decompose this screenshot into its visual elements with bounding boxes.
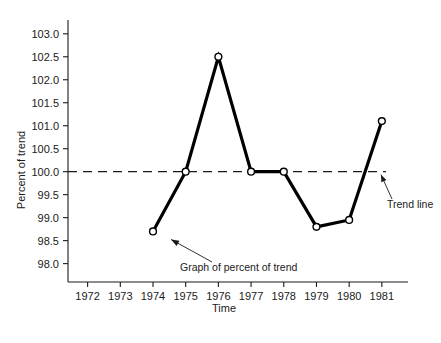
- y-tick-label: 100.0: [31, 166, 59, 178]
- y-tick-label: 102.0: [31, 74, 59, 86]
- x-tick-label: 1974: [141, 290, 165, 302]
- percent-of-trend-line-chart: 98.098.599.099.5100.0100.5101.0101.5102.…: [0, 0, 441, 343]
- axes-group: [68, 20, 408, 282]
- data-point-marker: [280, 168, 287, 175]
- y-tick-label: 99.0: [38, 212, 59, 224]
- x-tick-label: 1980: [337, 290, 361, 302]
- y-tick-label: 100.5: [31, 143, 59, 155]
- annotation-trend-label: Trend line: [387, 198, 433, 210]
- x-tick-label: 1975: [173, 290, 197, 302]
- annotation-series-note: Graph of percent of trend: [171, 239, 297, 273]
- y-axis-ticks: 98.098.599.099.5100.0100.5101.0101.5102.…: [31, 28, 68, 270]
- x-tick-label: 1976: [206, 290, 230, 302]
- x-tick-label: 1972: [75, 290, 99, 302]
- x-axis-title: Time: [212, 302, 236, 314]
- annotation-trend-note: Trend line: [381, 175, 433, 210]
- y-tick-label: 102.5: [31, 51, 59, 63]
- x-tick-label: 1981: [370, 290, 394, 302]
- y-tick-label: 103.0: [31, 28, 59, 40]
- y-tick-label: 98.0: [38, 258, 59, 270]
- x-tick-label: 1979: [304, 290, 328, 302]
- annotation-arrowhead-icon: [171, 239, 179, 245]
- x-tick-label: 1973: [108, 290, 132, 302]
- x-tick-label: 1978: [272, 290, 296, 302]
- y-tick-label: 101.0: [31, 120, 59, 132]
- y-tick-label: 99.5: [38, 189, 59, 201]
- x-tick-label: 1977: [239, 290, 263, 302]
- annotation-series-label: Graph of percent of trend: [180, 261, 297, 273]
- data-point-marker: [150, 228, 157, 235]
- y-tick-label: 101.5: [31, 97, 59, 109]
- data-point-marker: [248, 168, 255, 175]
- data-point-marker: [313, 223, 320, 230]
- y-tick-label: 98.5: [38, 235, 59, 247]
- y-axis-title: Percent of trend: [15, 131, 27, 209]
- annotation-arrowhead-icon-trend: [381, 175, 386, 183]
- data-point-marker: [215, 53, 222, 60]
- data-point-markers: [150, 53, 386, 234]
- chart-container: 98.098.599.099.5100.0100.5101.0101.5102.…: [0, 0, 441, 343]
- series-line-percent-of-trend: [153, 57, 382, 232]
- data-point-marker: [182, 168, 189, 175]
- data-point-marker: [378, 118, 385, 125]
- x-axis-ticks: 1972197319741975197619771978197919801981: [75, 282, 394, 302]
- data-point-marker: [346, 217, 353, 224]
